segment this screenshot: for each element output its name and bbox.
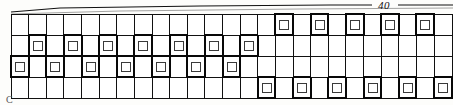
grid-cell bbox=[223, 14, 241, 35]
grid-cell bbox=[82, 35, 100, 56]
cell-marker-square-icon bbox=[103, 41, 113, 51]
table-row bbox=[11, 14, 452, 35]
grid-cell bbox=[399, 35, 417, 56]
grid-cell bbox=[223, 35, 241, 56]
grid-cell bbox=[240, 77, 258, 98]
grid-cell bbox=[416, 56, 434, 77]
grid-cell bbox=[328, 35, 346, 56]
grid-cell bbox=[187, 35, 205, 56]
cell-marker-square-icon bbox=[209, 41, 219, 51]
grid-cell bbox=[381, 56, 399, 77]
grid-cell bbox=[364, 35, 382, 56]
cell-marker-square-icon bbox=[262, 83, 272, 93]
grid-cell bbox=[134, 77, 152, 98]
grid-cell bbox=[29, 14, 47, 35]
cell-marker-square-icon bbox=[368, 83, 378, 93]
grid-cell bbox=[46, 14, 64, 35]
grid-cell bbox=[152, 35, 170, 56]
grid-cell bbox=[64, 14, 82, 35]
grid-cell-marked bbox=[311, 14, 329, 35]
cell-marker-square-icon bbox=[121, 62, 131, 72]
grid-cell bbox=[11, 77, 29, 98]
grid-cell-marked bbox=[223, 56, 241, 77]
cell-marker-square-icon bbox=[297, 83, 307, 93]
grid-cell bbox=[311, 35, 329, 56]
grid-cell-marked bbox=[416, 14, 434, 35]
cell-marker-square-icon bbox=[174, 41, 184, 51]
grid-cell bbox=[152, 77, 170, 98]
cell-marker-square-icon bbox=[403, 83, 413, 93]
grid-cell bbox=[82, 77, 100, 98]
grid-cell bbox=[346, 35, 364, 56]
grid-cell bbox=[64, 77, 82, 98]
cell-marker-square-icon bbox=[227, 62, 237, 72]
grid-cell bbox=[293, 56, 311, 77]
grid-cell-marked bbox=[240, 35, 258, 56]
cell-marker-square-icon bbox=[86, 62, 96, 72]
grid-cell-marked bbox=[134, 35, 152, 56]
cell-marker-square-icon bbox=[438, 83, 448, 93]
cell-marker-square-icon bbox=[279, 20, 289, 30]
grid-cell bbox=[170, 56, 188, 77]
grid-cell bbox=[64, 56, 82, 77]
grid-table bbox=[10, 13, 453, 99]
cell-marker-square-icon bbox=[156, 62, 166, 72]
grid-cell-marked bbox=[364, 77, 382, 98]
grid-cell bbox=[399, 14, 417, 35]
cell-marker-square-icon bbox=[315, 20, 325, 30]
grid-cell bbox=[99, 14, 117, 35]
grid-cell bbox=[381, 35, 399, 56]
grid-cell-marked bbox=[346, 14, 364, 35]
grid-cell bbox=[275, 56, 293, 77]
grid-cell bbox=[311, 56, 329, 77]
grid-cell-marked bbox=[399, 77, 417, 98]
grid-cell bbox=[328, 14, 346, 35]
grid-body bbox=[11, 14, 452, 98]
grid-cell-marked bbox=[293, 77, 311, 98]
grid-cell-marked bbox=[328, 77, 346, 98]
cell-marker-square-icon bbox=[191, 62, 201, 72]
grid-cell bbox=[434, 35, 452, 56]
cell-marker-square-icon bbox=[138, 41, 148, 51]
grid-cell bbox=[416, 77, 434, 98]
cell-marker-square-icon bbox=[350, 20, 360, 30]
grid-cell bbox=[46, 77, 64, 98]
grid-cell bbox=[434, 14, 452, 35]
part-label-c: C bbox=[6, 95, 13, 105]
grid-cell bbox=[364, 14, 382, 35]
cell-marker-square-icon bbox=[244, 41, 254, 51]
grid-cell-marked bbox=[434, 77, 452, 98]
grid-cell bbox=[117, 14, 135, 35]
grid-cell-marked bbox=[29, 35, 47, 56]
grid-cell-marked bbox=[64, 35, 82, 56]
grid-cell bbox=[328, 56, 346, 77]
grid-cell bbox=[134, 56, 152, 77]
cell-marker-square-icon bbox=[50, 62, 60, 72]
grid-cell bbox=[117, 77, 135, 98]
grid-cell-marked bbox=[99, 35, 117, 56]
grid-cell bbox=[29, 77, 47, 98]
grid-cell bbox=[187, 77, 205, 98]
cell-marker-square-icon bbox=[420, 20, 430, 30]
cell-marker-square-icon bbox=[68, 41, 78, 51]
grid-cell-marked bbox=[170, 35, 188, 56]
grid-cell bbox=[11, 14, 29, 35]
grid-cell bbox=[434, 56, 452, 77]
grid-cell bbox=[346, 56, 364, 77]
grid-cell bbox=[399, 56, 417, 77]
grid-cell bbox=[205, 77, 223, 98]
grid-cell-marked bbox=[275, 14, 293, 35]
grid-cell bbox=[275, 35, 293, 56]
grid-cell-marked bbox=[258, 77, 276, 98]
grid-cell bbox=[293, 35, 311, 56]
grid-cell-marked bbox=[187, 56, 205, 77]
grid-cell bbox=[82, 14, 100, 35]
grid-cell bbox=[187, 14, 205, 35]
grid-cell bbox=[293, 14, 311, 35]
grid-cell bbox=[99, 56, 117, 77]
grid-cell bbox=[99, 77, 117, 98]
cell-marker-square-icon bbox=[385, 20, 395, 30]
grid-cell bbox=[381, 77, 399, 98]
grid-cell bbox=[152, 14, 170, 35]
grid-cell bbox=[240, 56, 258, 77]
